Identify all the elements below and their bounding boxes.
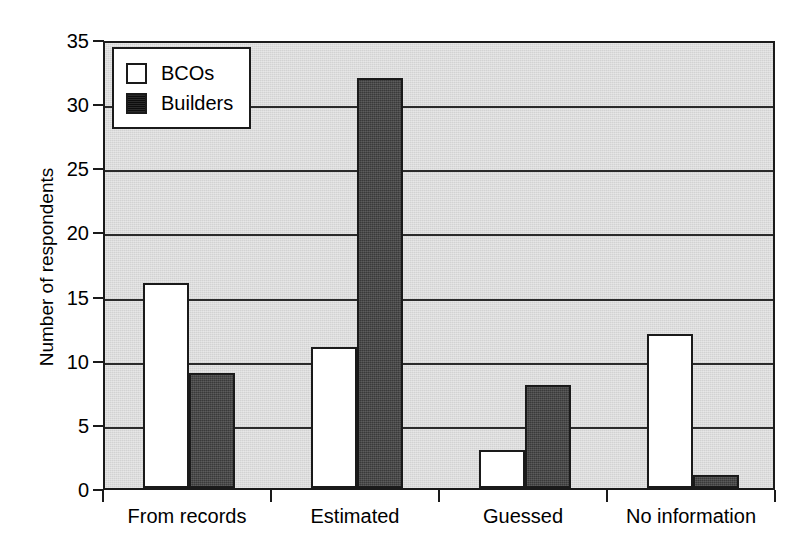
bar-bcos-estimated [311, 347, 357, 488]
x-axis-tick-mark [774, 490, 776, 502]
gridline [105, 234, 773, 236]
y-axis-tick-label: 25 [29, 158, 89, 181]
legend: BCOs Builders [112, 47, 251, 129]
x-axis-tick-mark [270, 490, 272, 502]
bar-bcos-from-records [143, 283, 189, 488]
gridline [105, 170, 773, 172]
bar-builders-from-records [189, 373, 235, 488]
legend-label-builders: Builders [161, 92, 233, 115]
bar-bcos-guessed [479, 450, 525, 488]
black-square-icon [126, 93, 147, 114]
x-axis-tick-mark [102, 490, 104, 502]
legend-item-builders: Builders [126, 88, 233, 118]
y-axis-tick-label: 35 [29, 30, 89, 53]
x-axis-tick-mark [438, 490, 440, 502]
bar-chart: Number of respondents From recordsEstima… [0, 0, 803, 556]
legend-label-bcos: BCOs [161, 62, 214, 85]
y-axis-tick-label: 15 [29, 286, 89, 309]
y-axis-tick-label: 0 [29, 479, 89, 502]
y-axis-tick-label: 20 [29, 222, 89, 245]
y-axis-tick-label: 10 [29, 350, 89, 373]
bar-builders-guessed [525, 385, 571, 488]
bar-bcos-no-information [647, 334, 693, 488]
bar-builders-no-information [693, 475, 739, 488]
y-axis-tick-label: 5 [29, 414, 89, 437]
x-axis-tick-mark [606, 490, 608, 502]
legend-item-bcos: BCOs [126, 58, 233, 88]
y-axis-title: Number of respondents [36, 107, 58, 427]
x-axis-tick-label: No information [591, 505, 791, 528]
y-axis-tick-label: 30 [29, 94, 89, 117]
bar-builders-estimated [357, 78, 403, 489]
gridline [105, 299, 773, 301]
white-square-icon [126, 63, 147, 84]
